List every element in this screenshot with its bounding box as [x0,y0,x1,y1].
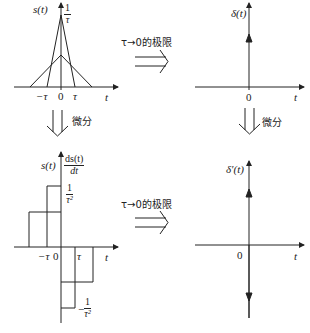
top-left-ylabel: s(t) [33,4,48,15]
tick-zero: 0 [58,91,64,102]
implies-arrow-down-left [47,110,68,136]
bottom-right-plot [195,161,304,318]
top-right-tick-zero: 0 [246,92,252,103]
pos-height-label: 1 τ² [66,183,73,205]
down-arrowhead [246,293,252,301]
bl-tick-neg-tau: −τ [38,251,49,262]
bottom-right-xlabel: t [294,251,297,262]
narrow-neg-rect [61,247,75,308]
derivative-label: ds(t) dt [64,154,84,176]
bottom-left-xlabel: t [105,252,108,263]
top-right-xlabel: t [294,92,297,103]
neg-height-label: 1 τ² [84,297,91,319]
bl-tick-tau: τ [77,251,81,262]
implies-arrow-top [135,50,168,73]
limit-label-bottom: τ→0的极限 [121,200,172,210]
implies-arrow-down-right [239,108,260,134]
implies-arrow-bottom [135,211,168,234]
top-left-peak-label: 1 τ [64,3,71,25]
tick-neg-tau: −τ [36,91,47,102]
limit-label-top: τ→0的极限 [121,38,172,48]
bottom-left-ylabel: s(t) [41,160,56,171]
wide-pos-rect [29,212,61,247]
diff-label-left: 微分 [72,117,92,127]
bl-tick-zero: 0 [53,251,59,262]
up-arrowhead [246,189,252,197]
bottom-left-plot [14,152,118,323]
bottom-right-ylabel: δ′(t) [226,164,244,175]
narrow-pos-rect [47,186,61,247]
diff-label-right: 微分 [262,118,282,128]
top-left-xlabel: t [105,92,108,103]
tick-tau: τ [73,91,77,102]
delta-arrowhead [246,34,252,42]
bottom-right-tick-zero: 0 [237,250,243,261]
top-right-plot [195,3,304,90]
top-right-ylabel: δ(t) [231,8,247,19]
